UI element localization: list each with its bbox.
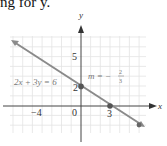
point-y-intercept	[78, 84, 84, 90]
x-axis-label: x	[157, 101, 162, 111]
point-extra	[137, 123, 142, 128]
y-tick-2: 2	[73, 82, 78, 93]
slope-denominator: 3	[119, 78, 122, 84]
x-axis	[3, 103, 157, 109]
equation-label: 2x + 3y = 6	[14, 77, 57, 87]
x-tick-0: 0	[72, 107, 77, 118]
y-tick-5: 5	[72, 51, 77, 62]
slope-numerator: 2	[119, 69, 122, 75]
slope-prefix: m = −	[88, 71, 111, 81]
x-tick-neg4: −4	[31, 107, 42, 118]
y-axis-label: y	[78, 10, 83, 20]
line-graph: y x 5 2 −4 0 3 2x + 3y = 6 m = − 2 3	[0, 0, 167, 146]
x-tick-3: 3	[107, 108, 112, 119]
